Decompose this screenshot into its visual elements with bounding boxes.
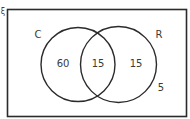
- r-only-value: 15: [130, 59, 143, 69]
- outside-value: 5: [158, 83, 164, 93]
- venn-diagram: ξ C R 60 15 15 5: [0, 0, 190, 119]
- universal-set-symbol: ξ: [1, 8, 5, 16]
- intersection-value: 15: [92, 59, 105, 69]
- c-only-value: 60: [57, 59, 70, 69]
- set-c-label: C: [35, 30, 42, 40]
- set-r-label: R: [156, 30, 163, 40]
